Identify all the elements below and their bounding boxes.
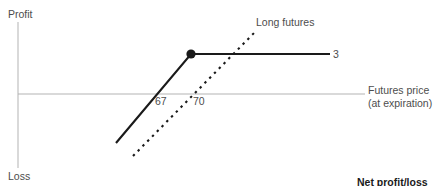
- net-profit-loss-series-line: [116, 54, 330, 143]
- kink-point-marker: [186, 49, 195, 58]
- series-endpoint-value-label: 3: [333, 48, 339, 60]
- payoff-diagram-figure: Profit Loss Long futures 67 70 3 Futures…: [0, 0, 444, 186]
- y-axis-bottom-label: Loss: [8, 170, 30, 182]
- x-axis-label-line2: (at expiration): [368, 97, 432, 109]
- x-axis-label: Futures price (at expiration): [368, 84, 442, 109]
- long-futures-series-label: Long futures: [256, 16, 314, 28]
- y-axis-top-label: Profit: [8, 8, 33, 20]
- x-axis-label-line1: Futures price: [368, 84, 429, 96]
- figure-caption: Net profit/loss: [357, 176, 428, 186]
- x-tick-label-70: 70: [193, 95, 205, 107]
- x-tick-label-67: 67: [155, 95, 167, 107]
